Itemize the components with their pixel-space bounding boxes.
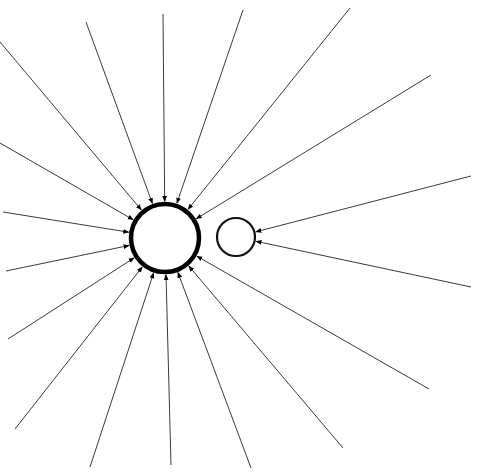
edge-arrow-to-hub (8, 258, 134, 339)
edge-arrow-to-hub (188, 8, 350, 209)
edge-arrow-to-hub (15, 267, 142, 429)
edge-arrow-to-hub (0, 42, 141, 210)
edge-arrow-to-hub (6, 246, 129, 272)
edge-arrow-to-hub (197, 256, 429, 389)
edge-arrow-to-hub (90, 273, 154, 467)
edge-arrow-to-hub (86, 22, 152, 204)
edge-arrow-to-hub (166, 275, 171, 465)
satellite-node-circle (217, 218, 255, 256)
edge-arrow-to-satellite (256, 241, 471, 287)
edge-arrow-to-satellite (256, 176, 471, 232)
edge-arrow-to-hub (0, 143, 133, 220)
star-network-diagram (0, 0, 477, 476)
diagram-canvas (0, 0, 477, 476)
edge-arrow-to-hub (196, 75, 431, 219)
node-group (131, 204, 255, 272)
edge-arrow-to-hub (189, 266, 343, 448)
edge-arrow-to-hub (3, 212, 129, 232)
edge-arrow-to-hub (177, 10, 243, 203)
edge-arrow-to-hub (178, 272, 251, 468)
edge-arrow-to-hub (163, 14, 165, 201)
hub-node-circle (131, 204, 199, 272)
